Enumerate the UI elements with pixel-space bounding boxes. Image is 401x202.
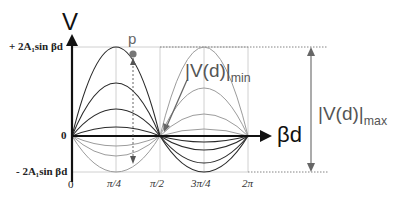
y-axis-label: V: [62, 8, 78, 36]
vmax-bottom-arrow-icon: [307, 163, 315, 172]
tick-pi-over-4: π/4: [107, 177, 121, 189]
point-label: p: [128, 30, 136, 47]
origin-label: 0: [68, 178, 74, 190]
vmin-text: |V(d)|: [185, 60, 231, 81]
x-axis-label: βd: [277, 122, 302, 148]
vmax-text: |V(d)|: [318, 103, 364, 124]
vmax-subscript: max: [364, 114, 387, 128]
vmax-label: |V(d)|max: [318, 103, 387, 128]
vmax-top-arrow-icon: [307, 47, 315, 56]
tick-pi-over-2: π/2: [150, 177, 164, 189]
vmin-subscript: min: [231, 71, 251, 85]
vmin-label: |V(d)|min: [185, 60, 251, 85]
zero-label: 0: [61, 129, 67, 141]
up-arrow-icon: [130, 58, 136, 65]
y-bottom-label: - 2A₁sin βd: [16, 165, 67, 177]
tick-2pi: 2π: [242, 177, 253, 189]
point-p-marker: [129, 50, 136, 57]
y-top-label: + 2A₁sin βd: [9, 40, 63, 52]
x-axis-arrow-icon: [260, 130, 272, 142]
down-arrow-icon: [130, 156, 136, 164]
tick-3pi-over-4: 3π/4: [191, 177, 211, 189]
